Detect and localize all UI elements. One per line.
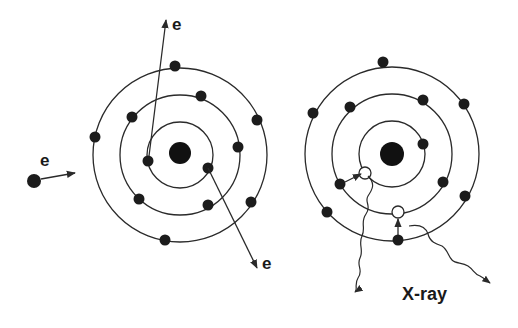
xray-label: X-ray <box>402 284 447 304</box>
electron <box>246 197 257 208</box>
atom-diagram: e e e X-ra <box>0 0 518 328</box>
transition-arrow-middle-to-inner <box>345 174 361 182</box>
nucleus <box>169 142 191 164</box>
electron <box>233 142 244 153</box>
electron <box>143 156 154 167</box>
middle-vacancy <box>392 206 404 218</box>
electron <box>170 61 181 72</box>
incident-electron <box>27 174 41 188</box>
left-atom: e e e <box>27 15 271 273</box>
scattered-electron-label: e <box>172 15 181 34</box>
electron <box>203 200 214 211</box>
transitioning-electron <box>335 179 346 190</box>
electron <box>160 235 171 246</box>
electron <box>90 132 101 143</box>
scattered-electron-arrow <box>149 20 166 156</box>
electron <box>134 194 145 205</box>
electron <box>418 139 429 150</box>
transitioning-electron <box>393 235 404 246</box>
incident-electron-label: e <box>40 151 49 170</box>
xray-wave-2 <box>409 225 490 283</box>
electron <box>196 91 207 102</box>
electron <box>308 108 319 119</box>
electron <box>460 191 471 202</box>
electron <box>345 102 356 113</box>
electron <box>378 57 389 68</box>
electron <box>438 177 449 188</box>
electron <box>418 95 429 106</box>
right-atom: X-ray <box>305 57 490 305</box>
electron <box>459 99 470 110</box>
incident-arrow <box>41 173 75 179</box>
nucleus <box>380 142 404 166</box>
electron <box>322 207 333 218</box>
electron <box>252 115 263 126</box>
electron <box>127 112 138 123</box>
ejected-electron-label: e <box>262 254 271 273</box>
